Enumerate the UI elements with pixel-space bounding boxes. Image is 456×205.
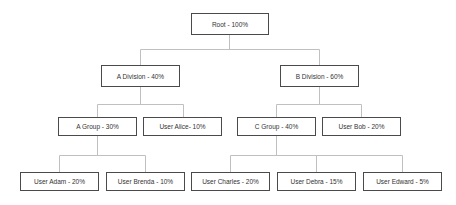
node-b-division: B Division - 60% (280, 65, 359, 87)
node-user-charles: User Charles - 20% (191, 172, 270, 191)
node-user-edward: User Edward - 5% (363, 172, 442, 191)
node-user-bob: User Bob - 20% (322, 117, 401, 136)
node-root: Root - 100% (191, 13, 269, 35)
org-chart-diagram: Root - 100% A Division - 40% B Division … (0, 0, 456, 205)
node-a-division: A Division - 40% (101, 65, 180, 87)
node-user-brenda: User Brenda - 10% (106, 172, 185, 191)
node-a-group: A Group - 30% (58, 117, 137, 136)
node-user-debra: User Debra - 15% (277, 172, 356, 191)
node-user-alice: User Alice- 10% (143, 117, 222, 136)
node-c-group: C Group - 40% (237, 117, 316, 136)
node-user-adam: User Adam - 20% (20, 172, 99, 191)
